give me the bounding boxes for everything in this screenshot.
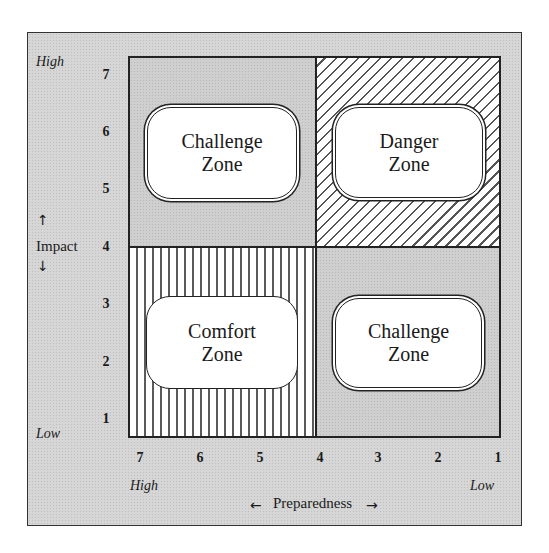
- zone-label-line1: Challenge: [368, 320, 449, 343]
- zone-label-line2: Zone: [388, 153, 429, 176]
- x-axis-label: Preparedness: [273, 495, 352, 512]
- horizontal-divider: [130, 246, 499, 248]
- y-tick-2: 2: [103, 354, 110, 370]
- y-axis-label: Impact: [36, 238, 78, 255]
- challenge-zone-bottom-right: Challenge Zone: [335, 298, 482, 388]
- x-tick-3: 3: [375, 450, 382, 466]
- challenge-zone-top-left: Challenge Zone: [147, 107, 297, 199]
- x-tick-5: 5: [257, 450, 264, 466]
- y-axis-low-label: Low: [36, 426, 60, 442]
- zone-label-line1: Comfort: [188, 320, 256, 343]
- x-tick-1: 1: [495, 450, 502, 466]
- arrow-up-icon: ↑: [37, 212, 49, 228]
- x-tick-4: 4: [317, 450, 324, 466]
- zone-label-line2: Zone: [201, 153, 242, 176]
- arrow-right-icon: →: [366, 497, 378, 513]
- y-tick-3: 3: [103, 296, 110, 312]
- x-tick-2: 2: [435, 450, 442, 466]
- danger-zone: Danger Zone: [335, 107, 483, 198]
- comfort-zone: Comfort Zone: [146, 296, 298, 389]
- y-tick-7: 7: [103, 67, 110, 83]
- arrow-down-icon: ↓: [37, 258, 49, 274]
- y-axis-high-label: High: [36, 54, 64, 70]
- y-tick-5: 5: [103, 181, 110, 197]
- arrow-left-icon: ←: [250, 497, 262, 513]
- y-tick-4: 4: [103, 239, 110, 255]
- y-tick-1: 1: [103, 411, 110, 427]
- y-tick-6: 6: [103, 124, 110, 140]
- zone-label-line2: Zone: [201, 343, 242, 366]
- zone-label-line2: Zone: [388, 343, 429, 366]
- x-tick-7: 7: [137, 450, 144, 466]
- x-tick-6: 6: [197, 450, 204, 466]
- x-axis-low-label: Low: [470, 478, 494, 494]
- zone-label-line1: Danger: [380, 130, 439, 153]
- x-axis-high-label: High: [130, 478, 158, 494]
- zone-label-line1: Challenge: [181, 130, 262, 153]
